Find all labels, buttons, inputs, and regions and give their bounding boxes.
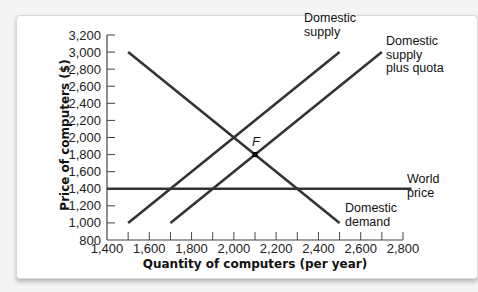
domestic-supply-label: Domesticsupply	[304, 11, 356, 39]
supply-plus-quota-line	[170, 52, 381, 223]
y-tick-label: 2,400	[68, 96, 101, 111]
x-tick-label: 2,000	[218, 241, 251, 256]
y-axis-title: Price of computers ($)	[58, 59, 72, 210]
y-tick-label: 3,200	[68, 28, 101, 43]
y-tick-label: 2,600	[68, 79, 101, 94]
y-axis: 8001,0001,2001,4001,6001,8002,0002,2002,…	[68, 28, 115, 248]
domestic-demand-label: Domesticdemand	[345, 201, 397, 229]
point-f-label: F	[252, 134, 261, 149]
y-tick-label: 2,800	[68, 62, 101, 77]
y-tick-label: 2,000	[68, 130, 101, 145]
y-tick-label: 1,400	[68, 181, 101, 196]
world-price-label: Worldprice	[407, 172, 439, 200]
curves: F	[107, 52, 411, 223]
y-tick-label: 1,800	[68, 147, 101, 162]
x-tick-label: 2,400	[302, 241, 335, 256]
curve-labels: DomesticsupplyDomesticsupplyplus quotaDo…	[304, 11, 444, 229]
supply-plus-quota-label: Domesticsupplyplus quota	[386, 34, 444, 75]
equilibrium-point-marker	[253, 152, 258, 157]
y-tick-label: 1,000	[68, 215, 101, 230]
x-tick-label: 1,800	[175, 241, 208, 256]
x-axis: 1,4001,6001,8002,0002,2002,4002,6002,800	[91, 232, 420, 256]
x-tick-label: 1,400	[91, 241, 124, 256]
y-tick-label: 1,200	[68, 198, 101, 213]
x-axis-title: Quantity of computers (per year)	[143, 257, 368, 271]
y-tick-label: 3,000	[68, 45, 101, 60]
x-tick-label: 2,800	[387, 241, 420, 256]
y-tick-label: 2,200	[68, 113, 101, 128]
x-tick-label: 2,200	[260, 241, 293, 256]
y-tick-label: 1,600	[68, 164, 101, 179]
x-tick-label: 1,600	[133, 241, 166, 256]
x-tick-label: 2,600	[344, 241, 377, 256]
